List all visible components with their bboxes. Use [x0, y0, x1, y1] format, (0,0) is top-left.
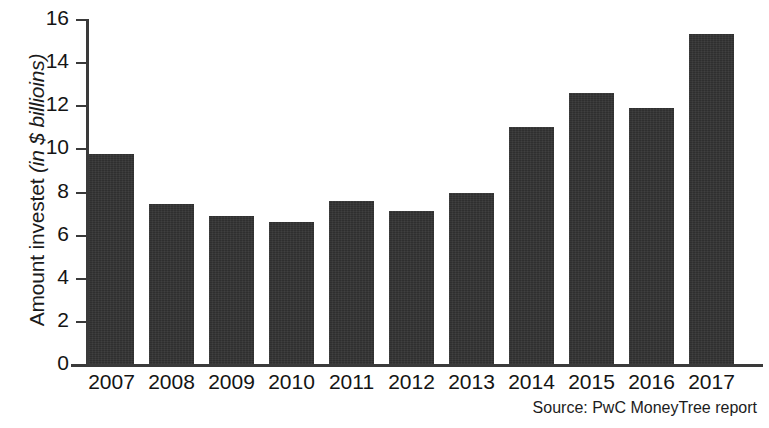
y-tick-label: 0: [29, 351, 69, 375]
y-tick-mark: [76, 278, 87, 280]
bar-chart-figure: Amount investet (in $ billioins) 0246810…: [0, 0, 769, 428]
y-tick-label: 10: [29, 135, 69, 159]
bar-2010: [269, 222, 314, 364]
y-tick-mark: [76, 235, 87, 237]
plot-area: [89, 19, 754, 364]
bar-2016: [629, 108, 674, 364]
x-axis-line: [71, 364, 763, 367]
y-tick-label: 2: [29, 308, 69, 332]
y-tick-mark: [76, 105, 87, 107]
y-tick-mark: [76, 19, 87, 21]
bar-2007: [89, 154, 134, 364]
y-tick-mark: [76, 192, 87, 194]
x-tick-label-2017: 2017: [677, 370, 747, 394]
bar-2017: [689, 34, 734, 364]
bar-2008: [149, 204, 194, 364]
bar-2014: [509, 127, 554, 364]
y-tick-mark: [76, 148, 87, 150]
y-tick-mark: [76, 321, 87, 323]
bar-2013: [449, 193, 494, 364]
y-tick-label: 14: [29, 49, 69, 73]
y-tick-label: 12: [29, 92, 69, 116]
y-tick-mark: [76, 62, 87, 64]
y-tick-label: 16: [29, 6, 69, 30]
y-tick-label: 4: [29, 265, 69, 289]
y-tick-label: 8: [29, 179, 69, 203]
y-tick-label: 6: [29, 222, 69, 246]
bar-2015: [569, 93, 614, 364]
y-tick-mark: [76, 364, 87, 366]
bar-2011: [329, 201, 374, 364]
bar-2012: [389, 211, 434, 364]
source-note: Source: PwC MoneyTree report: [533, 399, 757, 417]
bar-2009: [209, 216, 254, 364]
